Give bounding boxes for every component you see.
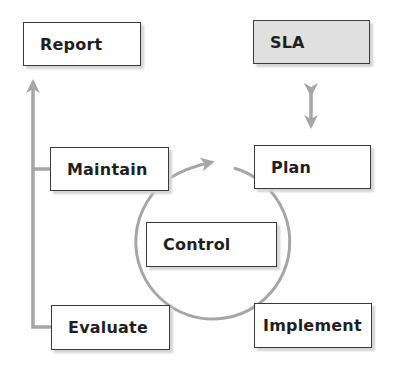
- maintain-label: Maintain: [67, 160, 148, 179]
- sla-box: SLA: [253, 20, 370, 64]
- evaluate-to-report-line: [33, 86, 51, 327]
- sla-label: SLA: [270, 33, 305, 52]
- control-box: Control: [146, 222, 277, 267]
- plan-box: Plan: [254, 145, 371, 189]
- maintain-to-plan-arrow: [170, 163, 208, 178]
- control-label: Control: [163, 235, 231, 254]
- evaluate-label: Evaluate: [68, 318, 148, 337]
- implement-label: Implement: [263, 316, 362, 335]
- implement-box: Implement: [254, 303, 372, 348]
- evaluate-box: Evaluate: [51, 305, 170, 350]
- plan-label: Plan: [271, 158, 311, 177]
- report-box: Report: [23, 22, 141, 66]
- report-label: Report: [40, 35, 102, 54]
- maintain-box: Maintain: [50, 147, 169, 191]
